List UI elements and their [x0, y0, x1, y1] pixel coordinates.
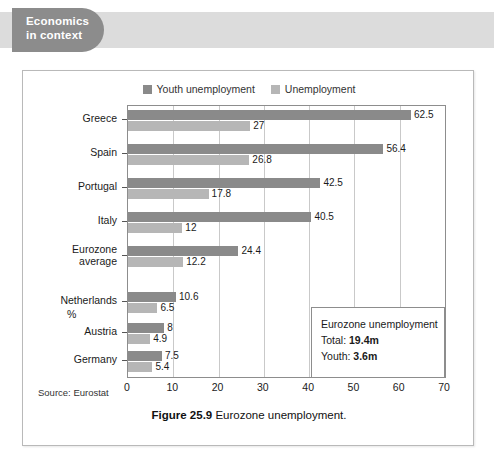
legend-swatch-unemployment: [271, 85, 280, 94]
bar-youth-unemployment: [128, 178, 320, 188]
bar-unemployment: [128, 189, 209, 199]
bar-value-label: 7.5: [165, 351, 179, 361]
figure-panel: Youth unemployment Unemployment % Greece…: [22, 70, 474, 446]
bar-value-label: 42.5: [323, 178, 342, 188]
bar-value-label: 27: [253, 121, 264, 131]
bar-value-label: 8: [167, 323, 173, 333]
category-label: Portugal: [21, 181, 117, 193]
section-tab-line1: Economics: [26, 14, 104, 28]
bar-unemployment: [128, 155, 249, 165]
bar-unemployment: [128, 362, 152, 372]
bar-value-label: 10.6: [179, 292, 198, 302]
x-axis-tick-label: 20: [212, 381, 224, 393]
figure-caption-text: Eurozone unemployment.: [215, 409, 346, 421]
annotation-title: Eurozone unemployment: [321, 316, 444, 332]
bar-value-label: 4.9: [153, 334, 167, 344]
axis-unit-label: %: [67, 308, 76, 320]
bar-unemployment: [128, 257, 183, 267]
category-label: Greece: [21, 113, 117, 125]
category-label: Italy: [21, 215, 117, 227]
category-label: Eurozoneaverage: [21, 244, 117, 267]
chart-legend: Youth unemployment Unemployment: [23, 83, 475, 95]
x-axis-tick-label: 30: [257, 381, 269, 393]
category-label: Spain: [21, 147, 117, 159]
category-label: Austria: [21, 326, 117, 338]
legend-item-youth-unemployment: Youth unemployment: [143, 83, 255, 95]
x-axis-tick-label: 50: [348, 381, 360, 393]
bar-unemployment: [128, 303, 157, 313]
category-label: Germany: [21, 354, 117, 366]
legend-item-unemployment: Unemployment: [271, 83, 356, 95]
x-axis-tick-label: 60: [393, 381, 405, 393]
bar-group: 42.517.8: [128, 178, 445, 200]
x-axis-ticks: 010203040506070: [127, 378, 446, 396]
bar-value-label: 12: [185, 223, 196, 233]
annotation-youth-row: Youth: 3.6m: [321, 348, 444, 364]
x-axis-tick-label: 10: [166, 381, 178, 393]
annotation-youth-value: 3.6m: [353, 350, 377, 362]
section-tab-line2: in context: [26, 28, 104, 42]
bar-value-label: 6.5: [160, 303, 174, 313]
legend-label-unemployment: Unemployment: [285, 83, 356, 95]
bar-youth-unemployment: [128, 110, 411, 120]
bar-value-label: 40.5: [314, 212, 333, 222]
figure-caption: Figure 25.9 Eurozone unemployment.: [23, 409, 475, 421]
legend-label-youth-unemployment: Youth unemployment: [157, 83, 255, 95]
annotation-total-row: Total: 19.4m: [321, 332, 444, 348]
bar-value-label: 12.2: [186, 257, 205, 267]
bar-value-label: 24.4: [241, 246, 260, 256]
annotation-total-label: Total:: [321, 334, 346, 346]
bar-value-label: 5.4: [155, 362, 169, 372]
bar-youth-unemployment: [128, 246, 238, 256]
bar-value-label: 62.5: [414, 110, 433, 120]
bar-value-label: 17.8: [212, 189, 231, 199]
legend-swatch-youth-unemployment: [143, 85, 152, 94]
figure-number: Figure 25.9: [152, 409, 213, 421]
bar-value-label: 26.8: [252, 155, 271, 165]
category-label: Netherlands: [21, 295, 117, 307]
bar-youth-unemployment: [128, 292, 176, 302]
bar-group: 56.426.8: [128, 144, 445, 166]
bar-youth-unemployment: [128, 323, 164, 333]
section-tab: Economics in context: [12, 8, 104, 52]
bar-unemployment: [128, 334, 150, 344]
x-axis-tick-label: 70: [438, 381, 450, 393]
bar-group: 24.412.2: [128, 246, 445, 268]
bar-youth-unemployment: [128, 144, 383, 154]
x-axis-tick-label: 0: [124, 381, 130, 393]
annotation-box: Eurozone unemployment Total: 19.4m Youth…: [311, 307, 445, 378]
bar-value-label: 56.4: [386, 144, 405, 154]
bar-group: 40.512: [128, 212, 445, 234]
x-axis-tick-label: 40: [302, 381, 314, 393]
bar-youth-unemployment: [128, 212, 311, 222]
source-note: Source: Eurostat: [38, 387, 109, 398]
annotation-youth-label: Youth:: [321, 350, 350, 362]
bar-group: 62.527: [128, 110, 445, 132]
annotation-total-value: 19.4m: [349, 334, 379, 346]
bar-unemployment: [128, 121, 250, 131]
bar-youth-unemployment: [128, 351, 162, 361]
bar-unemployment: [128, 223, 182, 233]
